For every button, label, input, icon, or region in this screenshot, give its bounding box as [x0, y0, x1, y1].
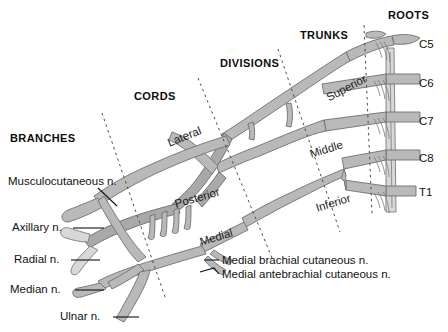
root-c8 [386, 150, 420, 160]
section-header-trunks: TRUNKS [300, 29, 348, 41]
superior-trunk-stub-2 [248, 122, 255, 140]
root-c8-stem [342, 150, 386, 169]
cutaneous-label-medial-antebrachial: Medial antebrachial cutaneous n. [222, 268, 391, 280]
musculocutaneous-nerve [62, 198, 103, 222]
branch-label-median: Median n. [10, 283, 61, 295]
root-label-c6: C6 [419, 77, 434, 89]
branch-label-axillary: Axillary n. [12, 221, 62, 233]
section-header-branches: BRANCHES [10, 132, 76, 144]
brachial-plexus-figure: .band { fill:#b9b9b9; stroke:#6f6f6f; st… [0, 0, 448, 332]
root-label-c5: C5 [419, 38, 434, 50]
plexus-diagram: .band { fill:#b9b9b9; stroke:#6f6f6f; st… [0, 0, 448, 332]
root-label-c7: C7 [419, 115, 434, 127]
root-t1 [386, 186, 416, 196]
branch-label-radial: Radial n. [14, 253, 59, 265]
branch-label-ulnar: Ulnar n. [60, 310, 100, 322]
section-header-roots: ROOTS [388, 9, 429, 21]
section-header-cords: CORDS [134, 90, 176, 102]
root-c5 [392, 35, 420, 45]
cutaneous-label-medial-brachial: Medial brachial cutaneous n. [222, 254, 368, 266]
root-c7 [386, 112, 420, 122]
root-c5-tip [366, 31, 386, 38]
root-label-t1: T1 [419, 186, 432, 198]
posterior-cord-stub-4 [184, 205, 191, 230]
root-t1-stem [344, 180, 386, 196]
superior-trunk-stub [286, 103, 293, 127]
root-label-c8: C8 [419, 152, 434, 164]
root-c7-stem [324, 112, 386, 131]
root-c6 [386, 74, 420, 84]
section-header-divisions: DIVISIONS [220, 57, 279, 69]
branch-label-musculocutaneous: Musculocutaneous n. [8, 175, 117, 187]
axillary-nerve [61, 228, 90, 242]
